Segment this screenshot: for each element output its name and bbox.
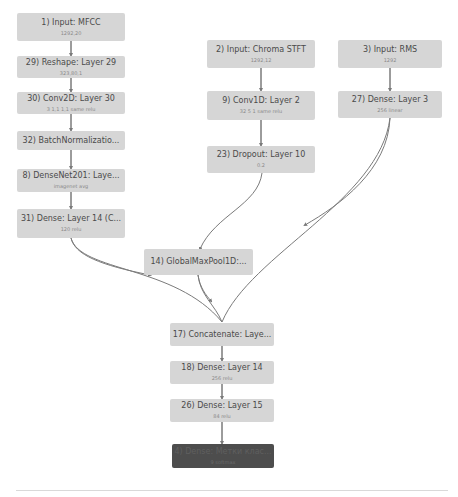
node-params: 256 linear (377, 106, 402, 114)
edge-n23-n14 (200, 173, 262, 249)
node-params: 32 5 1 same relu (240, 107, 282, 115)
node-dense-layer-14-c[interactable]: 31) Dense: Layer 14 (C... 120 relu (17, 209, 125, 238)
node-globalmaxpool1d[interactable]: 14) GlobalMaxPool1D:... (144, 249, 253, 275)
node-input-chroma-stft[interactable]: 2) Input: Chroma STFT 1292,12 (207, 40, 315, 68)
divider (16, 490, 448, 491)
node-title: 29) Reshape: Layer 29 (26, 58, 116, 68)
node-title: 30) Conv2D: Layer 30 (27, 94, 115, 104)
node-params: 1292,20 (61, 29, 82, 37)
node-dense-layer-15[interactable]: 26) Dense: Layer 15 84 relu (170, 399, 274, 422)
node-densenet201[interactable]: 8) DenseNet201: Laye... imagenet avg (17, 169, 125, 192)
node-input-mfcc[interactable]: 1) Input: MFCC 1292,20 (17, 13, 125, 41)
node-dense-layer-3[interactable]: 27) Dense: Layer 3 256 linear (338, 91, 442, 118)
node-title: 3) Input: RMS (363, 45, 417, 55)
node-conv1d-layer-2[interactable]: 9) Conv1D: Layer 2 32 5 1 same relu (207, 91, 315, 120)
edge-n14-n17 (198, 275, 222, 322)
node-params: 120 relu (61, 225, 82, 233)
node-title: 4) Dense: Метки клас... (174, 447, 271, 457)
node-params: 84 relu (213, 412, 231, 420)
node-params: 323,80,1 (60, 69, 82, 77)
node-title: 31) Dense: Layer 14 (C... (21, 214, 121, 224)
node-batchnormalization[interactable]: 32) BatchNormalizatio... (17, 131, 125, 150)
node-conv2d-layer-30[interactable]: 30) Conv2D: Layer 30 3 1,1 1,1 same relu (17, 92, 125, 114)
node-title: 17) Concatenate: Laye... (173, 330, 272, 340)
node-params: 3 1,1 1,1 same relu (47, 105, 96, 113)
node-dense-layer-14[interactable]: 18) Dense: Layer 14 256 relu (170, 361, 274, 384)
node-title: 32) BatchNormalizatio... (23, 136, 120, 146)
node-title: 9) Conv1D: Layer 2 (222, 96, 299, 106)
node-title: 26) Dense: Layer 15 (181, 401, 262, 411)
node-reshape-layer-29[interactable]: 29) Reshape: Layer 29 323,80,1 (17, 56, 125, 78)
node-title: 14) GlobalMaxPool1D:... (150, 257, 246, 267)
node-input-rms[interactable]: 3) Input: RMS 1292 (338, 40, 442, 68)
node-params: imagenet avg (54, 182, 89, 190)
model-diagram-canvas[interactable]: 1) Input: MFCC 1292,20 29) Reshape: Laye… (0, 0, 458, 497)
node-title: 2) Input: Chroma STFT (216, 45, 306, 55)
node-params: 1292,12 (251, 56, 272, 64)
node-params: 9 softmax (211, 458, 236, 466)
node-title: 18) Dense: Layer 14 (181, 363, 262, 373)
node-title: 23) Dropout: Layer 10 (217, 150, 305, 160)
node-params: 256 relu (212, 374, 233, 382)
node-params: 0.2 (257, 161, 265, 169)
node-dropout-layer-10[interactable]: 23) Dropout: Layer 10 0.2 (207, 146, 315, 173)
node-output-dense[interactable]: 4) Dense: Метки клас... 9 softmax (172, 444, 274, 468)
node-concatenate[interactable]: 17) Concatenate: Laye... (170, 323, 274, 346)
node-title: 8) DenseNet201: Laye... (22, 171, 119, 181)
node-title: 27) Dense: Layer 3 (352, 95, 428, 105)
node-params: 1292 (384, 56, 397, 64)
node-title: 1) Input: MFCC (41, 18, 100, 28)
